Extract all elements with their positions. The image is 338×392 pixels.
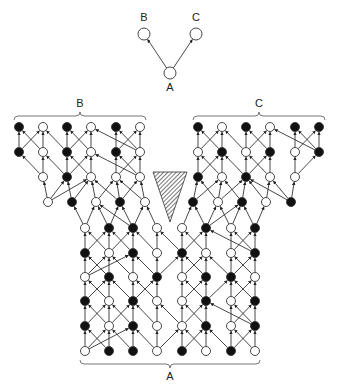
filled-node	[15, 148, 24, 157]
filled-node	[15, 123, 24, 132]
open-node	[153, 249, 162, 258]
open-node	[39, 148, 48, 157]
edge-arrow	[46, 131, 63, 149]
filled-node	[218, 148, 227, 157]
open-node	[178, 322, 187, 331]
edge-arrow	[161, 232, 179, 250]
open-node	[39, 123, 48, 132]
open-node	[202, 249, 211, 258]
open-node	[141, 198, 150, 207]
open-node	[218, 123, 227, 132]
filled-node	[63, 123, 72, 132]
edge-arrow	[249, 181, 263, 199]
bracket-label-c: C	[255, 97, 263, 109]
open-node	[178, 297, 187, 306]
filled-node	[227, 273, 236, 282]
top-tree-diagram: BCA	[138, 11, 202, 93]
open-node	[153, 224, 162, 233]
top-node-c	[190, 28, 202, 40]
open-node	[262, 198, 271, 207]
filled-node	[194, 123, 203, 132]
filled-node	[227, 347, 236, 356]
edge-arrow	[141, 182, 144, 198]
edge-arrow	[136, 305, 153, 323]
open-node	[81, 347, 90, 356]
edge-arrow	[120, 180, 142, 199]
edge-arrow	[292, 182, 294, 198]
filled-node	[251, 249, 260, 258]
open-node	[178, 224, 187, 233]
filled-node	[63, 148, 72, 157]
open-node	[105, 322, 114, 331]
brackets-layer: BCA	[14, 97, 325, 382]
edge-arrow	[136, 232, 153, 250]
open-node	[136, 173, 145, 182]
diagram-canvas: BCA BCA	[0, 0, 338, 392]
top-node-a	[164, 67, 176, 79]
edge-arrow	[95, 180, 117, 199]
filled-node	[189, 198, 198, 207]
edge-arrow	[22, 156, 39, 174]
filled-node	[81, 297, 90, 306]
edge-arrow	[210, 256, 228, 273]
filled-node	[315, 148, 324, 157]
nodes-layer	[15, 123, 324, 356]
open-node	[44, 198, 53, 207]
open-node	[39, 173, 48, 182]
filled-node	[105, 224, 114, 233]
open-node	[251, 347, 260, 356]
edge-arrow	[233, 207, 240, 224]
edge-arrow	[209, 280, 227, 297]
filled-node	[291, 123, 300, 132]
open-node	[251, 273, 260, 282]
filled-node	[112, 148, 121, 157]
hatched-triangle-icon	[153, 172, 187, 222]
bracket-b	[14, 112, 146, 120]
edge-arrow	[194, 182, 197, 198]
filled-node	[129, 347, 138, 356]
open-node	[194, 148, 203, 157]
filled-node	[178, 249, 187, 258]
edge-arrow	[148, 39, 167, 68]
filled-node	[105, 273, 114, 282]
bracket-label-b: B	[76, 97, 83, 109]
edge-arrow	[137, 257, 154, 274]
filled-node	[251, 297, 260, 306]
filled-node	[129, 297, 138, 306]
filled-node	[202, 322, 211, 331]
open-node	[81, 273, 90, 282]
filled-node	[238, 198, 247, 207]
open-node	[266, 123, 275, 132]
open-node	[227, 297, 236, 306]
filled-node	[68, 198, 77, 207]
filled-node	[81, 249, 90, 258]
edge-arrow	[75, 181, 88, 198]
open-node	[202, 347, 211, 356]
bracket-c	[193, 112, 325, 120]
edge-arrow	[298, 156, 315, 174]
bracket-label-a: A	[166, 370, 174, 382]
filled-node	[129, 249, 138, 258]
edge-arrow	[225, 156, 242, 174]
filled-node	[129, 224, 138, 233]
filled-node	[242, 123, 251, 132]
filled-node	[153, 273, 162, 282]
filled-node	[251, 322, 260, 331]
open-node	[242, 148, 251, 157]
open-node	[227, 249, 236, 258]
filled-node	[202, 297, 211, 306]
top-node-label-b: B	[140, 11, 147, 23]
edge-arrow	[173, 39, 192, 68]
edge-arrow	[225, 181, 239, 199]
open-node	[153, 322, 162, 331]
filled-node	[129, 322, 138, 331]
filled-node	[63, 173, 72, 182]
open-node	[136, 148, 145, 157]
edge-arrow	[257, 207, 264, 224]
edge-arrow	[184, 207, 191, 224]
open-node	[129, 273, 138, 282]
open-node	[227, 224, 236, 233]
open-node	[136, 123, 145, 132]
open-node	[291, 148, 300, 157]
edge-arrow	[225, 131, 242, 149]
